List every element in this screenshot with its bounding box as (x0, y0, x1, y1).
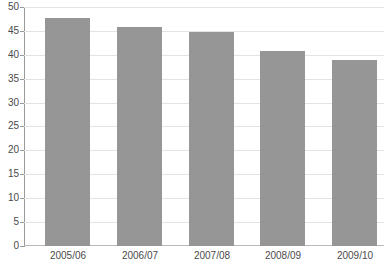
y-tick-label: 50 (1, 2, 19, 12)
y-tick-label: 5 (1, 217, 19, 227)
bar-2005-06 (45, 18, 90, 246)
y-axis-tick-labels: 50 45 40 35 30 25 20 15 10 5 0 (0, 0, 19, 271)
bars-layer (24, 7, 384, 246)
x-tick-label-2005-06: 2005/06 (32, 250, 104, 262)
y-tick-label: 25 (1, 121, 19, 131)
x-tick-label-2008-09: 2008/09 (247, 250, 319, 262)
y-tick-label: 45 (1, 26, 19, 36)
y-tick-label: 10 (1, 193, 19, 203)
y-tick-label: 20 (1, 145, 19, 155)
bar-2007-08 (189, 32, 234, 246)
y-tick-label: 15 (1, 169, 19, 179)
y-tick-label: 0 (1, 241, 19, 251)
bar-chart: 50 45 40 35 30 25 20 15 10 5 0 (0, 0, 384, 271)
bar-2009-10 (332, 60, 377, 246)
y-tick-label: 35 (1, 74, 19, 84)
x-tick-label-2009-10: 2009/10 (319, 250, 384, 262)
plot-area (24, 7, 384, 246)
x-tick-label-2007-08: 2007/08 (176, 250, 248, 262)
bar-2008-09 (260, 51, 305, 246)
y-tick-label: 30 (1, 98, 19, 108)
x-axis-tick-labels: 2005/06 2006/07 2007/08 2008/09 2009/10 (24, 250, 384, 266)
y-tick-label: 40 (1, 50, 19, 60)
x-tick-label-2006-07: 2006/07 (104, 250, 176, 262)
bar-2006-07 (117, 27, 162, 246)
